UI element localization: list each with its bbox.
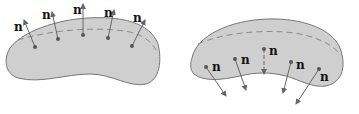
normal-label: n xyxy=(14,20,23,34)
normal-label: n xyxy=(269,44,278,58)
normal-label: n xyxy=(212,60,221,74)
normal-label: n xyxy=(241,53,250,67)
normal-vectors-diagram: n n n n n n n n n n xyxy=(0,0,359,114)
normal-label: n xyxy=(133,11,142,25)
left-surface: n n n n n xyxy=(6,3,160,85)
normal-label: n xyxy=(73,3,82,17)
normal-label: n xyxy=(104,6,113,20)
normal-label: n xyxy=(42,8,51,22)
normal-label: n xyxy=(320,70,329,84)
right-surface: n n n n n xyxy=(191,19,343,104)
normal-label: n xyxy=(296,58,305,72)
